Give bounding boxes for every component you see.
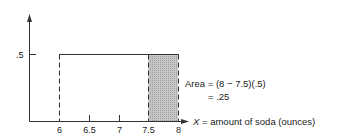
x-tick-label: 8 bbox=[176, 125, 181, 135]
x-tick-label: 7.5 bbox=[142, 125, 155, 135]
x-axis-label: X = amount of soda (ounces) bbox=[192, 116, 315, 127]
shaded-area bbox=[149, 55, 179, 122]
uniform-distribution-chart: .5 6 6.5 7 7.5 8 X = amount of soda (oun… bbox=[0, 0, 348, 137]
y-axis-arrow-icon bbox=[27, 14, 32, 22]
x-axis-label-text: = amount of soda (ounces) bbox=[199, 116, 315, 127]
x-tick-label: 6 bbox=[57, 125, 62, 135]
area-annotation-line2: = .25 bbox=[208, 91, 229, 102]
x-axis-arrow-icon bbox=[181, 119, 189, 124]
y-tick-label: .5 bbox=[16, 50, 24, 60]
x-tick-label: 6.5 bbox=[83, 125, 96, 135]
area-annotation-line1: Area = (8 − 7.5)(.5) bbox=[185, 78, 266, 89]
x-tick-label: 7 bbox=[117, 125, 122, 135]
